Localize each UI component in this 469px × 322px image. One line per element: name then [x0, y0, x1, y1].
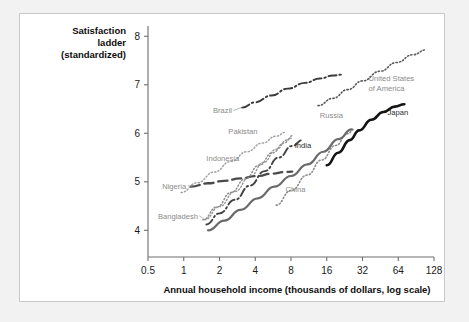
chart-figure: 456780.51248163264128Satisfactionladder(… [19, 13, 445, 302]
x-tick-label: 1 [181, 265, 187, 276]
y-axis-title-line: Satisfaction [72, 25, 126, 36]
series-label-brazil: Brazil [213, 106, 232, 115]
y-tick-label: 8 [134, 31, 140, 42]
x-tick-label: 32 [357, 265, 369, 276]
satisfaction-income-chart: 456780.51248163264128Satisfactionladder(… [20, 14, 444, 301]
y-axis-title-line: (standardized) [61, 49, 126, 60]
x-tick-label: 128 [426, 265, 443, 276]
y-tick-label: 4 [134, 225, 140, 236]
y-tick-label: 6 [134, 128, 140, 139]
y-tick-label: 7 [134, 79, 140, 90]
series-label-indonesia: Indonesia [206, 154, 240, 163]
x-tick-label: 16 [321, 265, 333, 276]
series-line-nigeria [191, 172, 292, 187]
series-label-usa2: of America [369, 84, 406, 93]
y-axis-title-line: ladder [97, 37, 126, 48]
x-axis-title: Annual household income (thousands of do… [163, 284, 430, 295]
series-label-japan: Japan [388, 108, 409, 117]
x-tick-label: 0.5 [141, 265, 155, 276]
x-tick-label: 4 [252, 265, 258, 276]
series-label-india: India [295, 141, 312, 150]
series-label-pakistan: Pakistan [228, 127, 257, 136]
series-label-bangladesh: Bangladesh [158, 212, 198, 221]
series-line-india [206, 140, 302, 224]
x-tick-label: 64 [393, 265, 405, 276]
y-tick-label: 5 [134, 176, 140, 187]
series-label-russia: Russia [320, 111, 344, 120]
series-label-nigeria: Nigeria [162, 182, 187, 191]
series-line-brazil [242, 75, 342, 108]
series-label-china: China [286, 185, 307, 194]
x-tick-label: 2 [217, 265, 223, 276]
series-label-usa: United States [369, 74, 415, 83]
x-tick-label: 8 [288, 265, 294, 276]
